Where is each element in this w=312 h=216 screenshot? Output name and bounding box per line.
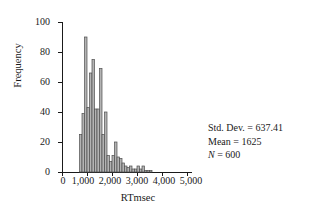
histogram-bar [97, 109, 100, 172]
histogram-bar [85, 37, 88, 172]
y-axis-ticks [58, 22, 62, 172]
plot-canvas [0, 0, 312, 216]
histogram-bars [80, 37, 153, 172]
histogram-bar [142, 166, 145, 172]
histogram-bar [107, 156, 110, 173]
histogram-bar [127, 168, 130, 173]
histogram-bar [105, 112, 108, 172]
histogram-bar [80, 135, 83, 173]
histogram-figure: Frequency 100 80 60 40 20 0 0 1,000 2,00… [0, 0, 312, 216]
histogram-bar [112, 156, 115, 173]
histogram-bar [130, 166, 133, 172]
histogram-bar [117, 157, 120, 172]
histogram-bar [120, 159, 123, 173]
histogram-bar [145, 171, 148, 173]
histogram-bar [132, 169, 135, 172]
histogram-bar [87, 108, 90, 173]
histogram-bar [135, 169, 138, 172]
histogram-bar [125, 166, 128, 172]
histogram-bar [137, 166, 140, 172]
histogram-bar [115, 142, 118, 172]
histogram-bar [90, 73, 93, 172]
histogram-bar [122, 163, 125, 172]
histogram-bar [150, 171, 153, 173]
histogram-bar [82, 114, 85, 173]
histogram-bar [147, 171, 150, 173]
histogram-bar [95, 109, 98, 172]
x-axis-ticks [62, 172, 187, 176]
histogram-bar [100, 69, 103, 173]
histogram-bar [92, 60, 95, 173]
histogram-bar [102, 135, 105, 173]
histogram-bar [110, 162, 113, 173]
histogram-bar [140, 169, 143, 172]
